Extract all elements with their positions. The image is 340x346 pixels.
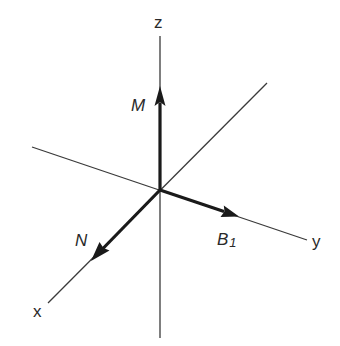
z-axis-label: z	[154, 14, 163, 31]
vector-b1-label-main: B	[217, 230, 228, 249]
vector-m	[155, 86, 166, 190]
vector-b1	[160, 190, 239, 217]
vector-n-shaft	[103, 190, 160, 249]
vector-n	[91, 190, 160, 261]
vector-m-label: M	[131, 97, 145, 114]
coordinate-diagram	[0, 0, 340, 346]
vector-n-label: N	[75, 232, 87, 249]
x-axis-label: x	[33, 303, 42, 320]
vector-b1-shaft	[160, 190, 224, 212]
vector-b1-label-subscript: 1	[229, 235, 236, 250]
vector-b1-label: B1	[217, 231, 236, 248]
y-axis-label: y	[312, 233, 321, 250]
